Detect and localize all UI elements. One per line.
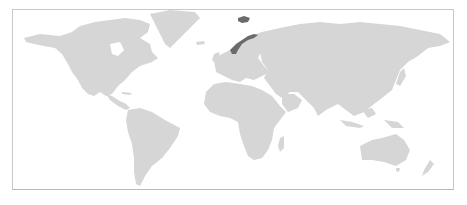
region-australia[interactable] bbox=[360, 134, 410, 166]
region-africa[interactable] bbox=[204, 82, 286, 160]
region-south-america[interactable] bbox=[126, 108, 180, 186]
region-greenland[interactable] bbox=[150, 10, 200, 48]
world-map bbox=[0, 0, 467, 205]
region-svalbard-highlighted[interactable] bbox=[238, 16, 250, 23]
region-central-america[interactable] bbox=[106, 94, 130, 110]
region-north-america[interactable] bbox=[24, 18, 158, 96]
